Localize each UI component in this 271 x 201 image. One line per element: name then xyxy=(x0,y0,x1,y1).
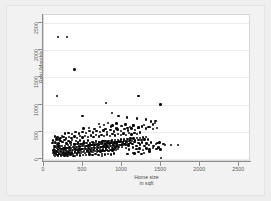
data-point xyxy=(111,147,113,149)
data-point xyxy=(74,151,76,153)
data-point xyxy=(118,144,120,146)
data-point xyxy=(121,146,123,148)
gridline-horizontal xyxy=(44,159,249,160)
data-point xyxy=(101,140,103,142)
data-point xyxy=(60,154,62,156)
data-point xyxy=(132,124,134,126)
data-point xyxy=(82,154,84,156)
data-point xyxy=(67,151,69,153)
data-point xyxy=(104,140,106,142)
data-point xyxy=(99,150,101,152)
data-point xyxy=(116,142,118,144)
data-point xyxy=(145,147,147,149)
data-point xyxy=(57,145,59,147)
data-point xyxy=(85,154,87,156)
data-point xyxy=(152,145,154,147)
data-point xyxy=(116,144,118,146)
data-point xyxy=(132,124,134,126)
x-tick-label: 1000 xyxy=(107,166,135,172)
data-point xyxy=(126,116,128,118)
data-point xyxy=(147,138,149,140)
data-point xyxy=(58,152,60,154)
data-point xyxy=(106,133,108,135)
data-point xyxy=(143,124,145,126)
gridline-horizontal xyxy=(44,23,249,24)
data-point xyxy=(123,143,125,145)
data-point xyxy=(97,150,99,152)
data-point xyxy=(86,150,88,152)
data-point xyxy=(73,143,75,145)
data-point xyxy=(65,137,67,139)
data-point xyxy=(97,143,99,145)
data-point xyxy=(141,125,143,127)
data-point xyxy=(76,146,78,148)
x-tick-label: 1500 xyxy=(146,166,174,172)
data-point xyxy=(90,134,92,136)
data-point xyxy=(89,143,91,145)
data-point xyxy=(97,146,99,148)
data-point xyxy=(133,141,135,143)
data-point xyxy=(76,143,78,145)
data-point xyxy=(55,150,57,152)
data-point xyxy=(72,146,74,148)
x-axis-title: Home size in sqft xyxy=(43,174,250,187)
data-point xyxy=(56,147,58,149)
data-point xyxy=(110,140,112,142)
data-point xyxy=(53,145,55,147)
data-point xyxy=(58,153,60,155)
data-point xyxy=(139,143,141,145)
data-point xyxy=(121,125,123,127)
data-point xyxy=(98,141,100,143)
data-point xyxy=(115,144,117,146)
data-point xyxy=(92,136,94,138)
data-point xyxy=(120,134,122,136)
data-point xyxy=(110,145,112,147)
data-point xyxy=(71,149,73,151)
data-point xyxy=(82,151,84,153)
data-point xyxy=(117,139,119,141)
data-point xyxy=(92,141,94,143)
data-point xyxy=(80,152,82,154)
data-point xyxy=(60,150,62,152)
data-point xyxy=(64,145,66,147)
data-point xyxy=(81,148,83,150)
data-point xyxy=(86,149,88,151)
data-point xyxy=(132,152,134,154)
data-point xyxy=(129,142,131,144)
data-point xyxy=(64,153,66,155)
data-point xyxy=(58,138,60,140)
y-tick-label: 0 xyxy=(33,158,39,161)
data-point xyxy=(100,143,102,145)
data-point xyxy=(98,123,100,125)
data-point xyxy=(73,143,75,145)
data-point xyxy=(130,133,132,135)
data-point xyxy=(114,141,116,143)
data-point xyxy=(122,141,124,143)
data-point xyxy=(73,135,75,137)
data-point xyxy=(70,152,72,154)
data-point xyxy=(89,149,91,151)
data-point xyxy=(104,128,106,130)
data-point xyxy=(105,145,107,147)
data-point xyxy=(95,140,97,142)
data-point xyxy=(84,152,86,154)
data-point xyxy=(115,141,117,143)
data-point xyxy=(109,145,111,147)
data-point xyxy=(99,126,101,128)
data-point xyxy=(105,147,107,149)
data-point xyxy=(99,148,101,150)
data-point xyxy=(128,148,130,150)
data-point xyxy=(54,149,56,151)
data-point xyxy=(63,139,65,141)
data-point xyxy=(98,143,100,145)
data-point xyxy=(100,134,102,136)
data-point xyxy=(98,135,100,137)
data-point xyxy=(97,143,99,145)
data-point xyxy=(103,143,105,145)
data-point xyxy=(68,146,70,148)
data-point xyxy=(155,148,157,150)
data-point xyxy=(115,122,117,124)
data-point xyxy=(105,149,107,151)
data-point xyxy=(78,145,80,147)
data-point xyxy=(66,152,68,154)
